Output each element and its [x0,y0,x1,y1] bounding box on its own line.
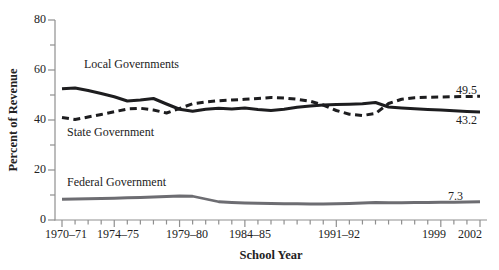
y-tick-label-0: 0 [18,213,46,226]
x-tick-label-1970-71: 1970–71 [45,228,87,241]
y-tick-label-20: 20 [18,163,46,176]
y-tick-label-60: 60 [18,63,46,76]
x-tick-label-2002: 2002 [458,228,482,241]
end-value-state-government: 49.5 [456,84,477,97]
x-tick-label-1999: 1999 [422,228,446,241]
line-federal-government [62,196,480,204]
x-tick-label-1979-80: 1979–80 [166,228,208,241]
x-axis-title: School Year [239,249,302,262]
y-tick-label-80: 80 [18,13,46,26]
end-value-local-governments: 43.2 [456,114,477,127]
revenue-sources-line-chart: Percent of Revenue School Year 80 60 40 … [0,0,499,270]
x-tick-label-1974-75: 1974–75 [97,228,139,241]
y-tick-label-40: 40 [18,113,46,126]
x-tick-label-1984-85: 1984–85 [229,228,271,241]
series-label-state-government: State Government [67,126,154,139]
series-label-federal-government: Federal Government [67,176,166,189]
series-label-local-governments: Local Governments [84,58,179,71]
x-tick-label-1991-92: 1991–92 [318,228,360,241]
end-value-federal-government: 7.3 [448,190,463,203]
